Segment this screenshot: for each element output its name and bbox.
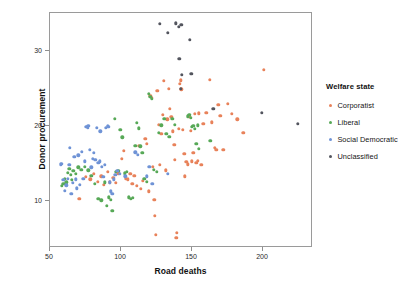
x-tick-label-150: 150 — [185, 253, 197, 260]
data-point — [70, 192, 73, 195]
data-point — [145, 175, 148, 178]
data-point — [151, 182, 154, 185]
data-point — [186, 163, 189, 166]
data-point — [92, 151, 95, 154]
data-point — [177, 127, 180, 130]
data-point — [133, 174, 136, 177]
data-point — [118, 172, 121, 175]
data-point — [166, 31, 169, 34]
data-point — [98, 160, 101, 163]
data-point — [119, 128, 122, 131]
data-point — [175, 236, 178, 239]
data-point — [173, 123, 176, 126]
data-point — [181, 128, 184, 131]
data-point — [158, 163, 161, 166]
data-point — [77, 197, 80, 200]
data-point — [202, 122, 205, 125]
data-point — [167, 87, 170, 90]
data-point — [95, 126, 98, 129]
data-point — [83, 165, 86, 168]
legend-items: CorporatistLiberalSocial DemocraticUncla… — [326, 98, 412, 164]
data-point — [72, 155, 75, 158]
data-point — [99, 130, 102, 133]
data-point — [103, 181, 106, 184]
data-point — [129, 172, 132, 175]
data-point — [196, 159, 199, 162]
data-point — [262, 68, 265, 71]
data-point — [210, 121, 213, 124]
data-point — [178, 82, 181, 85]
x-tick-mark-200 — [262, 247, 263, 251]
data-point — [87, 169, 90, 172]
data-point — [68, 146, 71, 149]
data-point — [136, 153, 139, 156]
data-point — [147, 190, 150, 193]
data-point — [189, 129, 192, 132]
data-point — [158, 22, 161, 25]
data-point — [69, 173, 72, 176]
x-tick-label-50: 50 — [45, 253, 53, 260]
data-point — [75, 187, 78, 190]
data-point — [121, 136, 124, 139]
data-point — [168, 135, 171, 138]
data-point — [193, 127, 196, 130]
data-point — [88, 148, 91, 151]
legend-item-social-democratic[interactable]: Social Democratic — [326, 132, 412, 147]
legend-item-unclassified[interactable]: Unclassified — [326, 149, 412, 164]
data-point — [109, 198, 112, 201]
data-point — [67, 163, 70, 166]
data-point — [241, 131, 244, 134]
data-point — [114, 181, 117, 184]
data-point — [165, 118, 168, 121]
data-point — [131, 196, 134, 199]
data-point — [173, 143, 176, 146]
data-point — [126, 178, 129, 181]
data-point — [145, 180, 148, 183]
data-point — [87, 124, 90, 127]
legend-marker-icon — [329, 104, 332, 107]
x-axis-label: Road deaths — [49, 266, 312, 276]
legend-item-label: Unclassified — [337, 152, 377, 161]
data-point — [230, 112, 233, 115]
data-point — [166, 172, 169, 175]
data-point — [178, 57, 181, 60]
data-point — [180, 23, 183, 26]
data-point — [236, 118, 239, 121]
data-point — [170, 117, 173, 120]
data-point — [173, 158, 176, 161]
legend-item-liberal[interactable]: Liberal — [326, 115, 412, 130]
data-point — [189, 116, 192, 119]
data-point — [83, 160, 86, 163]
data-point — [162, 79, 165, 82]
data-point — [93, 182, 96, 185]
x-tick-label-200: 200 — [256, 253, 268, 260]
data-point — [182, 152, 185, 155]
legend-item-label: Liberal — [337, 118, 360, 127]
legend-item-corporatist[interactable]: Corporatist — [326, 98, 412, 113]
data-point — [160, 132, 163, 135]
data-point — [141, 151, 144, 154]
data-point — [217, 103, 220, 106]
data-point — [135, 121, 138, 124]
data-point — [89, 166, 92, 169]
data-point — [80, 150, 83, 153]
data-point — [137, 127, 140, 130]
data-point — [190, 160, 193, 163]
legend-marker-icon — [329, 155, 332, 158]
legend-marker-icon — [329, 121, 332, 124]
data-point — [222, 148, 225, 151]
data-point — [209, 139, 212, 142]
data-point — [96, 180, 99, 183]
data-point — [80, 168, 83, 171]
data-point — [204, 111, 207, 114]
data-point — [135, 184, 138, 187]
data-point — [143, 137, 146, 140]
data-points-layer — [50, 13, 311, 246]
data-point — [82, 177, 85, 180]
x-tick-mark-100 — [120, 247, 121, 251]
data-point — [120, 157, 123, 160]
data-point — [77, 154, 80, 157]
data-point — [197, 147, 200, 150]
x-tick-label-100: 100 — [114, 253, 126, 260]
x-tick-mark-50 — [49, 247, 50, 251]
